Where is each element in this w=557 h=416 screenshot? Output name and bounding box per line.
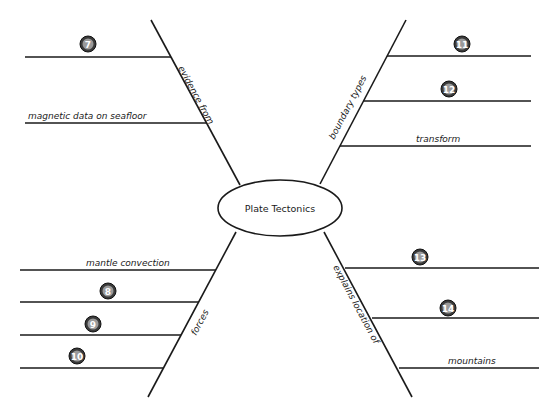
badge-11: 11 <box>454 36 470 52</box>
badge-10: 10 <box>69 348 85 364</box>
svg-text:11: 11 <box>456 40 469 50</box>
answer-mantle-convection: mantle convection <box>86 258 170 268</box>
branch-label: explains location of <box>331 263 382 347</box>
badge-8: 8 <box>100 283 116 299</box>
badge-7: 7 <box>80 36 96 52</box>
badge-9: 9 <box>85 316 101 332</box>
center-label: Plate Tectonics <box>245 203 315 214</box>
branch-boundary-types: boundary types 11 12 transform <box>320 20 531 184</box>
svg-text:12: 12 <box>443 85 456 95</box>
svg-text:14: 14 <box>442 304 455 314</box>
svg-text:8: 8 <box>105 287 111 297</box>
center-node: Plate Tectonics <box>218 180 342 236</box>
svg-text:10: 10 <box>71 352 84 362</box>
answer-magnetic-data: magnetic data on seafloor <box>28 111 148 121</box>
concept-map: Plate Tectonics evidence from 7 magnetic… <box>0 0 557 416</box>
badge-14: 14 <box>440 300 456 316</box>
svg-text:13: 13 <box>414 253 427 263</box>
answer-mountains: mountains <box>448 356 496 366</box>
branch-spine <box>148 232 236 397</box>
branch-spine <box>320 20 406 184</box>
branch-evidence-from: evidence from 7 magnetic data on seafloo… <box>25 20 240 185</box>
svg-text:9: 9 <box>90 320 96 330</box>
branch-forces: forces mantle convection 8 9 10 <box>20 232 236 397</box>
answer-transform: transform <box>416 134 461 144</box>
svg-text:7: 7 <box>85 40 91 50</box>
badge-13: 13 <box>412 249 428 265</box>
branch-label: forces <box>189 308 211 337</box>
branch-label: evidence from <box>176 64 216 126</box>
branch-explains-location-of: explains location of 13 14 mountains <box>324 232 539 397</box>
badge-12: 12 <box>441 81 457 97</box>
